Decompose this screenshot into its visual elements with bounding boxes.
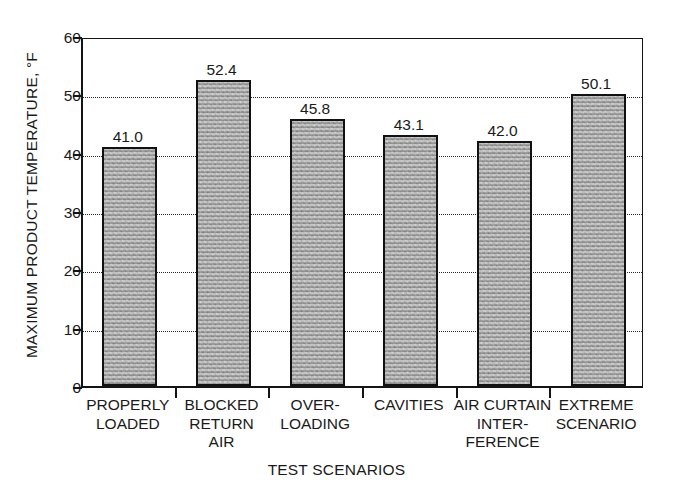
bar (571, 94, 626, 386)
x-tick-mark (268, 388, 270, 398)
bar (102, 147, 157, 386)
x-category-label: CAVITIES (374, 396, 443, 415)
x-category-label: BLOCKED RETURN AIR (184, 396, 258, 452)
bar-value-label: 43.1 (394, 116, 424, 132)
bar (383, 135, 438, 386)
bar-value-label: 42.0 (487, 123, 517, 139)
x-category-label: AIR CURTAIN INTER- FERENCE (454, 396, 552, 452)
gridline (83, 331, 642, 332)
x-category-label: EXTREME SCENARIO (556, 396, 637, 433)
gridline (83, 272, 642, 273)
x-category-label: OVER- LOADING (280, 396, 350, 433)
bar (477, 141, 532, 386)
gridline (83, 97, 642, 98)
bar-value-label: 50.1 (581, 75, 611, 91)
bar-value-label: 41.0 (113, 128, 143, 144)
bar-value-label: 52.4 (206, 62, 236, 78)
x-tick-mark (362, 388, 364, 398)
x-tick-mark (549, 388, 551, 398)
x-tick-mark (175, 388, 177, 398)
bar (196, 80, 251, 386)
x-tick-mark (456, 388, 458, 398)
x-axis-title: TEST SCENARIOS (0, 461, 673, 479)
plot-area (81, 38, 643, 388)
x-category-label: PROPERLY LOADED (86, 396, 169, 433)
gridline (83, 214, 642, 215)
gridline (83, 156, 642, 157)
bar-value-label: 45.8 (300, 100, 330, 116)
chart-figure: MAXIMUM PRODUCT TEMPERATURE, °F 01020304… (0, 0, 673, 501)
bar (290, 119, 345, 386)
